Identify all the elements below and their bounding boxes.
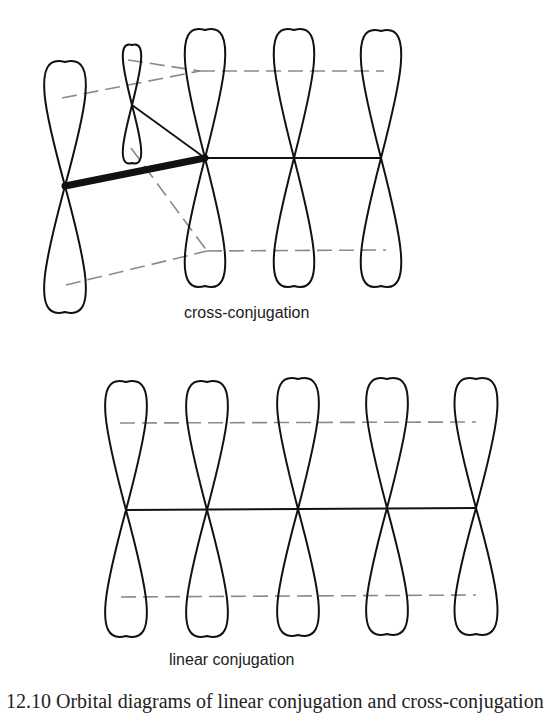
nodal-plane-dashed-line [207, 250, 386, 251]
thick-bond-line [65, 158, 205, 186]
p-orbital-bottom-lobe [361, 158, 402, 287]
p-orbital-bottom-lobe [105, 510, 147, 637]
p-orbital-top-lobe [274, 29, 315, 158]
linear-conjugation-label: linear conjugation [169, 651, 294, 669]
p-orbital-bottom-lobe [123, 105, 141, 163]
p-orbital-top-lobe [185, 29, 226, 158]
p-orbital-bottom-lobe [277, 509, 319, 636]
p-orbital-top-lobe [366, 378, 408, 508]
p-orbital-bottom-lobe [274, 158, 315, 287]
p-orbital-top-lobe [105, 381, 147, 510]
nodal-plane-dashed-line [120, 422, 476, 423]
nodal-plane-dashed-line [62, 71, 200, 98]
p-orbital-bottom-lobe [44, 186, 86, 313]
p-orbital-top-lobe [455, 378, 498, 508]
p-orbital-top-lobe [44, 61, 86, 186]
nodal-plane-dashed-line [121, 595, 476, 597]
cross-conjugation-diagram [44, 29, 401, 313]
p-orbital-bottom-lobe [186, 510, 228, 637]
p-orbital-top-lobe [277, 378, 319, 509]
sigma-bond-line [126, 508, 476, 510]
p-orbital-bottom-lobe [185, 158, 226, 287]
p-orbital-top-lobe [123, 45, 141, 105]
p-orbital-top-lobe [186, 381, 228, 510]
figure-caption: 12.10 Orbital diagrams of linear conjuga… [6, 690, 544, 713]
cross-conjugation-label: cross-conjugation [184, 304, 309, 322]
p-orbital-bottom-lobe [366, 508, 408, 635]
p-orbital-bottom-lobe [455, 508, 498, 635]
nodal-plane-dashed-line [128, 60, 200, 71]
p-orbital-top-lobe [361, 30, 402, 158]
linear-conjugation-diagram [105, 378, 497, 637]
